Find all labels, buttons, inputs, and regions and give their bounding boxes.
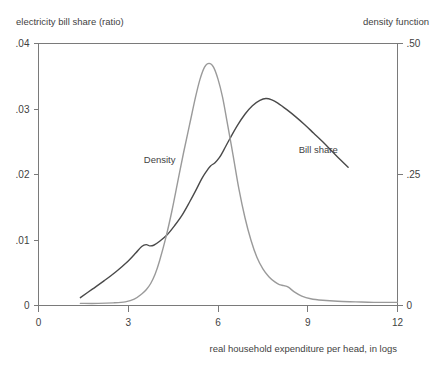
right-tick-label: .50: [407, 38, 421, 49]
left-tick-label: .02: [16, 169, 30, 180]
series-annotation-bill-share: Bill share: [299, 144, 338, 155]
x-tick-label: 12: [392, 317, 404, 328]
left-tick-label: 0: [24, 300, 30, 311]
x-axis-caption: real household expenditure per head, in …: [210, 343, 398, 354]
x-tick-label: 3: [125, 317, 131, 328]
right-axis-title: density function: [363, 16, 429, 27]
chart-svg: electricity bill share (ratio) density f…: [0, 0, 445, 365]
chart-figure: electricity bill share (ratio) density f…: [0, 0, 445, 365]
series-annotations: Bill shareDensity: [144, 144, 338, 165]
left-axis-ticks: 0.01.02.03.04: [16, 38, 39, 311]
left-tick-label: .01: [16, 235, 30, 246]
series-curve-bill-share: [80, 99, 348, 298]
series-curve-density: [80, 63, 397, 303]
left-axis-title: electricity bill share (ratio): [16, 16, 124, 27]
left-tick-label: .03: [16, 104, 30, 115]
plot-frame: [39, 44, 398, 306]
right-tick-label: 0: [407, 300, 413, 311]
series-annotation-density: Density: [144, 154, 176, 165]
series-curves: [80, 63, 397, 303]
left-tick-label: .04: [16, 38, 30, 49]
x-tick-label: 0: [36, 317, 42, 328]
x-axis-ticks: 036912: [36, 306, 404, 328]
x-tick-label: 9: [305, 317, 311, 328]
right-axis-ticks: 0.25.50: [398, 38, 421, 311]
x-tick-label: 6: [215, 317, 221, 328]
right-tick-label: .25: [407, 169, 421, 180]
